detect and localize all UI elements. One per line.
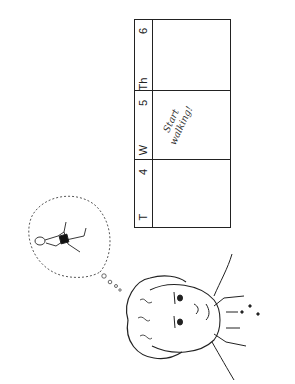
person-head [127,254,260,380]
exercising-figure-icon [35,222,86,252]
thought-trail-dots [102,274,121,291]
illustration-drawing [0,0,295,384]
